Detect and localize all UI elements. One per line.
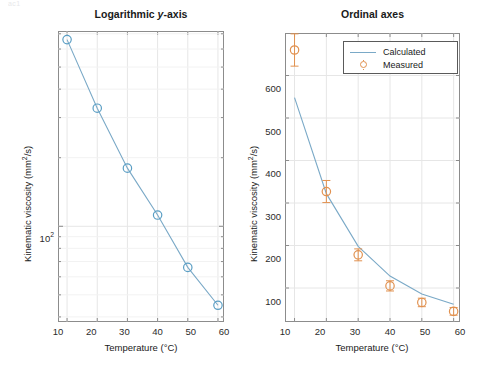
right-ytick-5: 600 — [248, 83, 281, 94]
legend-entry-measured[interactable]: Measured — [348, 58, 452, 71]
left-xtick-2: 30 — [119, 326, 130, 337]
left-xtick-5: 60 — [219, 326, 230, 337]
legend-label-calculated: Calculated — [383, 47, 426, 57]
right-yaxis-label: Kinematic viscosity (mm2/s) — [248, 146, 259, 262]
right-ytick-4: 500 — [248, 125, 281, 136]
legend-line-swatch — [348, 46, 378, 58]
left-xaxis-label: Temperature (°C) — [105, 342, 178, 353]
legend-entry-calculated[interactable]: Calculated — [348, 45, 452, 58]
left-xtick-3: 40 — [152, 326, 163, 337]
left-yaxis-label: Kinematic viscosity (mm2/s) — [22, 146, 33, 262]
right-xtick-1: 20 — [315, 326, 326, 337]
legend-marker-swatch — [348, 59, 378, 71]
figure-canvas: ac1 Logarithmic y-axis 10 20 30 40 50 60… — [0, 0, 480, 376]
right-xtick-0: 10 — [280, 326, 291, 337]
right-xaxis-label: Temperature (°C) — [336, 342, 409, 353]
panel-logarithmic-y-axis: Logarithmic y-axis 10 20 30 40 50 60 102… — [0, 0, 240, 376]
legend-label-measured: Measured — [383, 60, 423, 70]
right-xtick-4: 50 — [420, 326, 431, 337]
left-xtick-0: 10 — [53, 326, 64, 337]
right-ytick-0: 100 — [248, 295, 281, 306]
panel-ordinal-axes: Ordinal axes 10 20 30 40 50 60 100 200 3… — [240, 0, 480, 376]
left-xtick-4: 50 — [186, 326, 197, 337]
left-xtick-1: 20 — [86, 326, 97, 337]
right-xtick-5: 60 — [455, 326, 466, 337]
right-xtick-2: 30 — [350, 326, 361, 337]
legend[interactable]: Calculated Measured — [343, 41, 458, 74]
right-xtick-3: 40 — [385, 326, 396, 337]
left-ytick-0: 102 — [30, 233, 54, 244]
